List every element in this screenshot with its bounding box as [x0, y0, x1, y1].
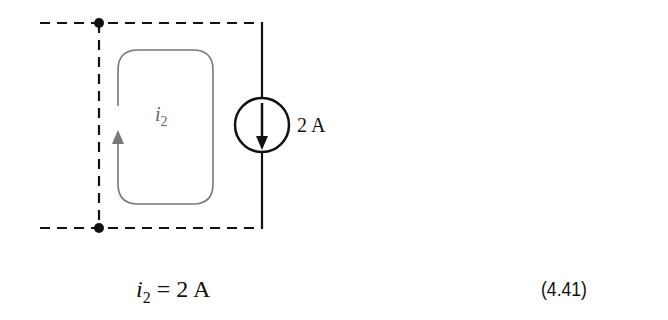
top-node-dot: [94, 18, 104, 28]
loop-arrow-icon: [112, 130, 124, 144]
circuit-diagram: [0, 0, 668, 320]
source-value-label: 2 A: [297, 114, 325, 137]
loop-current-label: i2: [155, 103, 168, 130]
equation: i2 = 2 A: [136, 276, 210, 307]
source-arrow-icon: [256, 136, 268, 150]
equation-number: (4.41): [541, 278, 587, 301]
bottom-node-dot: [94, 223, 104, 233]
